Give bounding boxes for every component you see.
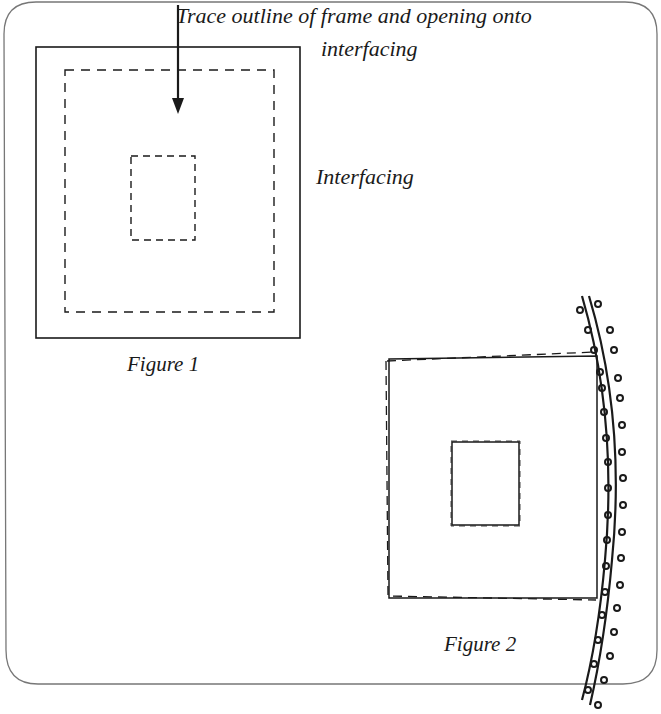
figure-1-caption: Figure 1 bbox=[127, 352, 199, 377]
diagram-canvas bbox=[0, 0, 661, 714]
opening-dashed-outline bbox=[131, 156, 195, 240]
beaded-trim-icon bbox=[577, 296, 626, 708]
page-frame bbox=[4, 2, 657, 684]
opening-outline bbox=[452, 442, 519, 525]
annotation-line-2: interfacing bbox=[321, 36, 418, 62]
figure-1 bbox=[36, 5, 300, 338]
interfacing-dashed-outline bbox=[65, 70, 274, 312]
annotation-line-1: Trace outline of frame and opening onto bbox=[176, 3, 532, 29]
interfacing-dashed-outline bbox=[386, 352, 596, 600]
interfacing-label: Interfacing bbox=[316, 164, 414, 190]
frame-outline bbox=[36, 47, 300, 338]
figure-2-caption: Figure 2 bbox=[444, 632, 516, 657]
frame-outline bbox=[389, 356, 597, 598]
